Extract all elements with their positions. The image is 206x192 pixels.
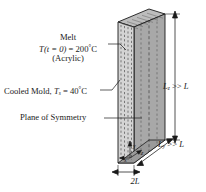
- thickness-label: 2L: [120, 177, 150, 187]
- melt-label-block: Melt T(t = 0) = 200°C (Acrylic): [24, 33, 112, 63]
- thickness-dimension: [112, 165, 140, 176]
- axis-label-z: z: [141, 150, 143, 157]
- mold-temp-unit: C: [81, 86, 87, 96]
- melt-temp-argument: (t = 0): [44, 43, 67, 53]
- lz-relation: >>: [170, 81, 184, 91]
- lz-reference: L: [184, 81, 189, 91]
- cooled-mold-label: Cooled Mold, Ts = 40°C: [4, 85, 87, 97]
- ly-dimension-label: Ly >> L: [158, 140, 184, 150]
- mold-leader: [100, 80, 120, 90]
- slab-front-face: [118, 22, 134, 163]
- melt-temp-equals: = 200: [66, 43, 88, 53]
- slab-heat-transfer-diagram: Melt T(t = 0) = 200°C (Acrylic) Cooled M…: [0, 0, 206, 192]
- mold-label-text: Cooled Mold,: [4, 86, 54, 96]
- melt-title: Melt: [24, 33, 112, 43]
- ly-reference: L: [179, 139, 184, 149]
- ly-relation: >>: [165, 139, 179, 149]
- melt-temp-unit: C: [91, 43, 97, 53]
- mold-temp-equals: = 40: [61, 86, 79, 96]
- plane-of-symmetry-label: Plane of Symmetry: [20, 113, 86, 123]
- lz-dimension-label: Lz >> L: [163, 82, 189, 92]
- axis-label-x: x: [124, 157, 127, 164]
- axis-label-y: y: [133, 143, 136, 150]
- melt-material: (Acrylic): [24, 54, 112, 64]
- lz-dimension: [165, 11, 180, 143]
